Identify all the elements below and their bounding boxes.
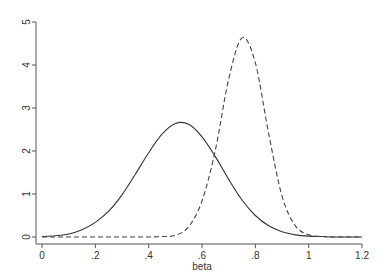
y-tick-label: 2 — [21, 148, 32, 154]
x-tick-label: .8 — [251, 250, 260, 261]
solid-density-line — [42, 122, 362, 237]
x-tick-label: 1.2 — [355, 250, 369, 261]
density-plot: 012345 0.2.4.6.811.2 beta — [0, 0, 386, 278]
x-tick-label: 0 — [39, 250, 45, 261]
x-axis: 0.2.4.6.811.2 — [36, 244, 369, 261]
y-tick-label: 1 — [21, 191, 32, 197]
x-tick-label: .4 — [145, 250, 154, 261]
y-tick-label: 5 — [21, 19, 32, 25]
x-tick-label: .2 — [91, 250, 100, 261]
x-axis-label: beta — [192, 261, 212, 272]
x-tick-label: 1 — [306, 250, 312, 261]
y-tick-label: 4 — [21, 62, 32, 68]
x-tick-label: .6 — [198, 250, 207, 261]
y-tick-label: 3 — [21, 105, 32, 111]
y-tick-label: 0 — [21, 234, 32, 240]
y-axis: 012345 — [21, 19, 37, 244]
